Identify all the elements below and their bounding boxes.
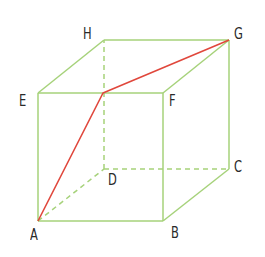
solid-edges: [38, 40, 229, 221]
edge-gf: [163, 40, 229, 93]
vertex-label-d: D: [108, 173, 117, 188]
vertex-label-b: B: [171, 226, 179, 241]
cube-drawing: [0, 0, 265, 257]
edge-ad: [38, 169, 104, 221]
vertex-label-a: A: [30, 228, 38, 243]
shortest-path-line: [38, 40, 229, 221]
vertex-label-c: C: [234, 160, 242, 175]
cube-diagram: H G E F D C A B: [0, 0, 265, 257]
vertex-label-e: E: [19, 94, 26, 109]
hidden-edges: [38, 40, 229, 221]
edge-eh: [38, 40, 104, 93]
vertex-label-f: F: [169, 94, 176, 109]
edge-cb: [163, 169, 229, 221]
vertex-label-g: G: [234, 27, 243, 42]
vertex-label-h: H: [83, 27, 92, 42]
